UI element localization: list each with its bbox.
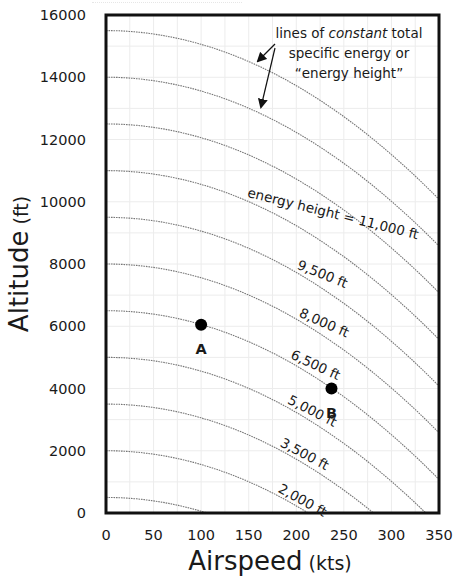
annotation-line-3: “energy height” bbox=[295, 65, 403, 81]
energy-height-chart: 0200040006000800010000120001400016000 05… bbox=[0, 0, 457, 584]
x-tick-label: 100 bbox=[187, 527, 215, 543]
y-axis-ticks: 0200040006000800010000120001400016000 bbox=[40, 7, 86, 521]
x-axis-ticks: 050100150200250300350 bbox=[101, 527, 452, 543]
y-tick-label: 2000 bbox=[49, 443, 86, 459]
y-tick-label: 0 bbox=[77, 505, 86, 521]
data-point-label: A bbox=[196, 341, 208, 357]
annotation-energy-height: lines of constant total specific energy … bbox=[258, 25, 422, 107]
x-tick-label: 0 bbox=[101, 527, 110, 543]
x-tick-label: 300 bbox=[378, 527, 406, 543]
energy-curve bbox=[106, 357, 428, 514]
x-tick-label: 150 bbox=[235, 527, 263, 543]
data-point-a bbox=[195, 319, 207, 331]
x-tick-label: 250 bbox=[330, 527, 358, 543]
data-point-b bbox=[325, 383, 337, 395]
y-tick-label: 6000 bbox=[49, 318, 86, 334]
y-tick-label: 8000 bbox=[49, 256, 86, 272]
y-tick-label: 12000 bbox=[40, 132, 86, 148]
x-tick-label: 350 bbox=[425, 527, 453, 543]
x-tick-label: 200 bbox=[282, 527, 310, 543]
curve-label: 9,500 ft bbox=[295, 256, 350, 291]
x-tick-label: 50 bbox=[144, 527, 162, 543]
annotation-line-2: specific energy or bbox=[289, 45, 410, 61]
annotation-line-1: lines of constant total bbox=[276, 25, 423, 41]
y-tick-label: 4000 bbox=[49, 381, 86, 397]
y-tick-label: 16000 bbox=[40, 7, 86, 23]
y-tick-label: 10000 bbox=[40, 194, 86, 210]
energy-curve bbox=[106, 497, 209, 513]
y-axis-title: Altitude(ft) bbox=[4, 196, 34, 332]
x-axis-title: Airspeed(kts) bbox=[188, 546, 351, 576]
data-point-label: B bbox=[326, 405, 337, 421]
grid-lines bbox=[106, 15, 439, 513]
chart-canvas: 0200040006000800010000120001400016000 05… bbox=[0, 0, 457, 584]
clipped-caption-fragment bbox=[92, 0, 242, 3]
y-tick-label: 14000 bbox=[40, 69, 86, 85]
